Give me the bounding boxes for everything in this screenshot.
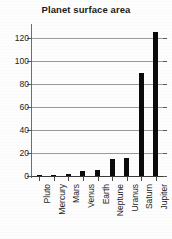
y-axis-tick-label: 20 [1,149,29,157]
x-axis-tick-label: Mercury [58,184,67,215]
bar-chart: Planet surface area 020406080100120 Plut… [0,0,172,239]
y-axis-tick-right [163,84,167,85]
bar [95,170,100,176]
x-axis-tick-label: Neptune [116,184,125,216]
y-axis-tick-label: 100 [1,57,29,65]
y-axis-line [31,24,32,178]
x-axis-tick [127,177,128,181]
bar [110,159,115,176]
gridline [32,38,163,39]
bar [37,175,42,176]
x-axis-tick-label: Earth [102,184,111,204]
y-axis-tick-label: 40 [1,126,29,134]
x-axis-tick [39,177,40,181]
y-axis-tick-label: 120 [1,34,29,42]
x-axis-tick-label: Uranus [131,184,140,211]
y-axis-tick-right [163,130,167,131]
bar [124,158,129,176]
x-axis-tick-label: Saturn [145,184,154,209]
x-axis-tick-label: Mars [72,184,81,203]
x-axis-tick [98,177,99,181]
y-axis-tick-right [163,176,167,177]
bar [51,175,56,176]
x-axis-tick [54,177,55,181]
y-axis-tick-right [163,107,167,108]
bar [153,32,158,176]
y-axis-tick-label: 60 [1,103,29,111]
x-axis-tick [112,177,113,181]
x-axis-tick [68,177,69,181]
y-axis-tick-label: 0 [1,172,29,180]
x-axis-tick [83,177,84,181]
x-axis-tick-label: Venus [87,184,96,208]
bar [66,174,71,176]
bar [80,171,85,176]
y-axis-tick-label: 80 [1,80,29,88]
y-axis-tick-right [163,153,167,154]
bar [139,73,144,176]
gridline [32,61,163,62]
y-axis-tick-right [163,61,167,62]
y-axis-tick-right [163,38,167,39]
x-axis-tick [141,177,142,181]
x-axis-tick [156,177,157,181]
x-axis-tick-label: Jupiter [160,184,169,210]
chart-title: Planet surface area [0,4,172,15]
x-axis-tick-label: Pluto [43,184,52,203]
